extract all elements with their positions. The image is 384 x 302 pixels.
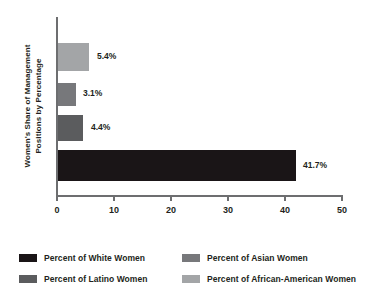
x-axis-tick-label-30: 30 [223, 205, 233, 215]
bar-asian-women [58, 83, 76, 106]
x-axis-tick-label-10: 10 [109, 205, 119, 215]
x-axis-line [56, 195, 343, 197]
legend-item-white-women: Percent of White Women [19, 253, 145, 263]
legend-label-african-american-women: Percent of African-American Women [207, 274, 356, 284]
bar-african-american-women [58, 43, 89, 71]
bar-label-white-women: 41.7% [303, 160, 327, 170]
bar-label-african-american-women: 5.4% [97, 51, 116, 61]
legend-label-latino-women: Percent of Latino Women [44, 274, 147, 284]
x-axis-tick-10 [113, 195, 115, 201]
chart-legend: Percent of White Women Percent of Asian … [19, 253, 371, 293]
legend-item-latino-women: Percent of Latino Women [19, 274, 147, 284]
x-axis-tick-label-50: 50 [337, 205, 347, 215]
x-axis-tick-40 [284, 195, 286, 201]
legend-label-asian-women: Percent of Asian Women [207, 253, 308, 263]
x-axis-tick-label-20: 20 [166, 205, 176, 215]
bar-latino-women [58, 115, 83, 141]
y-axis-title: Women's Share of Management Positions by… [18, 17, 48, 195]
x-axis-tick-label-0: 0 [54, 205, 59, 215]
x-axis-tick-20 [170, 195, 172, 201]
y-axis-title-line-1: Women's Share of Management [23, 44, 34, 167]
legend-swatch-latino-women-icon [19, 275, 37, 283]
legend-swatch-asian-women-icon [182, 254, 200, 262]
y-axis-title-line-2: Positions by Percentage [33, 44, 44, 167]
bar-white-women [58, 150, 296, 181]
x-axis-tick-50 [341, 195, 343, 201]
x-axis-tick-30 [227, 195, 229, 201]
legend-item-african-american-women: Percent of African-American Women [182, 274, 356, 284]
x-axis-tick-label-40: 40 [280, 205, 290, 215]
legend-swatch-african-american-women-icon [182, 275, 200, 283]
legend-item-asian-women: Percent of Asian Women [182, 253, 308, 263]
plot-area: 0 10 20 30 40 50 5.4% 3.1% 4.4% 41.7% [56, 17, 343, 195]
legend-swatch-white-women-icon [19, 254, 37, 262]
bar-label-asian-women: 3.1% [83, 88, 102, 98]
bar-label-latino-women: 4.4% [91, 122, 110, 132]
x-axis-tick-0 [56, 195, 58, 201]
bar-chart-figure: Women's Share of Management Positions by… [0, 0, 384, 302]
legend-label-white-women: Percent of White Women [44, 253, 145, 263]
